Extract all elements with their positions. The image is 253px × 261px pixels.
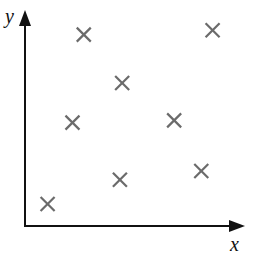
scatter-plot xyxy=(0,0,253,261)
data-point-x-marker-icon xyxy=(41,197,55,211)
x-axis-label: x xyxy=(230,234,239,254)
data-point-x-marker-icon xyxy=(206,23,220,37)
data-point-x-marker-icon xyxy=(115,76,129,90)
data-point-x-marker-icon xyxy=(167,113,181,127)
data-points xyxy=(41,23,220,211)
data-point-x-marker-icon xyxy=(65,116,79,130)
x-axis-arrow-icon xyxy=(229,220,245,232)
data-point-x-marker-icon xyxy=(194,164,208,178)
y-axis-arrow-icon xyxy=(19,10,31,26)
data-point-x-marker-icon xyxy=(113,173,127,187)
y-axis-label: y xyxy=(5,6,14,26)
data-point-x-marker-icon xyxy=(77,28,91,42)
